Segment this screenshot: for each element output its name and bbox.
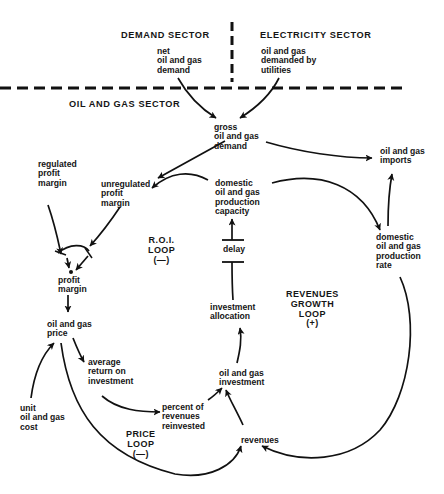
- arrow-percent-reinvested-to-investment: [208, 388, 222, 400]
- arrow-unit-cost-to-price: [31, 343, 54, 398]
- policy-switch-arc: [58, 246, 89, 253]
- arrow-switch-to-profit-margin-b: [76, 256, 88, 270]
- electricity-sector-label: ELECTRICITY SECTOR: [260, 30, 372, 40]
- var-production-rate: domestic oil and gas production rate: [376, 233, 421, 271]
- loop-label-price: PRICE LOOP (—): [126, 430, 156, 459]
- arrow-production-rate-to-imports: [388, 174, 392, 226]
- var-investment: oil and gas investment: [219, 369, 264, 388]
- var-gross-demand: gross oil and gas demand: [214, 123, 259, 151]
- arrow-capacity-to-production-rate: [272, 178, 380, 230]
- arrow-utilities-to-gross-demand: [240, 78, 279, 118]
- arrow-avg-return-to-percent-reinvested: [102, 396, 160, 412]
- var-percent-reinvested: percent of revenues reinvested: [162, 403, 205, 431]
- var-net-demand: net oil and gas demand: [157, 47, 202, 75]
- arrow-gross-demand-to-imports: [266, 142, 372, 158]
- var-regulated-margin: regulated profit margin: [38, 160, 77, 188]
- loop-label-roi: R.O.I. LOOP (—): [148, 236, 175, 265]
- arrow-price-to-avg-return: [73, 338, 84, 362]
- var-unit-cost: unit oil and gas cost: [20, 404, 65, 432]
- arrow-net-demand-to-gross-demand: [178, 78, 216, 118]
- arrow-switch-to-profit-margin-a: [67, 258, 69, 268]
- arrow-regulated-margin-to-junction: [48, 205, 61, 254]
- var-price: oil and gas price: [47, 320, 92, 339]
- var-production-capacity: domestic oil and gas production capacity: [215, 179, 260, 217]
- var-investment-allocation: investment allocation: [210, 303, 255, 322]
- arrow-investment-to-allocation: [237, 328, 241, 363]
- var-delay: delay: [223, 245, 245, 254]
- loop-label-revenues-growth: REVENUES GROWTH LOOP (+): [286, 290, 339, 329]
- demand-sector-label: DEMAND SECTOR: [121, 30, 210, 40]
- oil-gas-sector-label: OIL AND GAS SECTOR: [69, 99, 180, 109]
- var-avg-return: average return on investment: [88, 358, 133, 386]
- var-unregulated-margin: unregulated profit margin: [101, 180, 150, 208]
- var-utility-demand: oil and gas demanded by utilities: [261, 47, 316, 75]
- var-revenues: revenues: [241, 436, 279, 445]
- junction-point: [69, 270, 73, 274]
- var-profit-margin: profit margin: [58, 276, 87, 295]
- arrow-revenues-to-investment: [226, 390, 243, 425]
- arrow-unregulated-margin-to-junction: [90, 207, 120, 246]
- var-imports: oil and gas imports: [380, 147, 425, 166]
- line-allocation-to-delay: [232, 262, 233, 300]
